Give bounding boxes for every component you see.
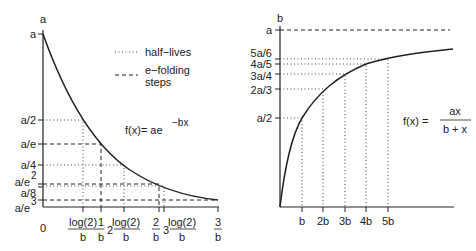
- right-y-tick-a: a: [266, 24, 273, 36]
- left-y-tick-over-e3: a/e: [15, 202, 30, 214]
- exponential-decay-curve: [43, 34, 218, 200]
- left-x-tick-1-over-b: 1 b: [98, 216, 104, 243]
- left-y-tick-e3-exponent: 3: [31, 196, 37, 207]
- svg-text:1: 1: [98, 216, 104, 228]
- right-guides: [280, 59, 388, 207]
- right-formula-denominator: b + x: [443, 123, 468, 135]
- legend-half-lives-label: half−lives: [145, 46, 192, 58]
- left-x-tick-3-over-b: 3 b: [214, 216, 222, 243]
- svg-text:b: b: [123, 231, 129, 243]
- left-formula: f(x)= ae −bx: [125, 117, 188, 136]
- left-x-ticks: [83, 207, 218, 212]
- svg-text:3: 3: [215, 216, 221, 228]
- left-y-ticks: [38, 34, 43, 200]
- diagram-canvas: a a a/2 a/e a/4 a/e 2 a/8 a/e 3: [0, 0, 476, 251]
- left-x-tick-2log2-over-b: 2 log(2) b: [107, 216, 140, 243]
- right-y-tick-2a3: 2a/3: [251, 84, 272, 96]
- right-x-tick-2b: 2b: [317, 215, 329, 227]
- right-panel-saturation: b a 5a/6 4a/5 3a/4 2a/3 a/2: [251, 12, 471, 227]
- left-y-tick-e2-exponent: 2: [31, 170, 37, 181]
- svg-text:b: b: [98, 231, 104, 243]
- right-y-tick-4a5: 4a/5: [251, 58, 272, 70]
- right-y-ticks: [275, 30, 280, 118]
- left-y-axis-label: a: [40, 13, 47, 25]
- right-y-axis-label: b: [277, 12, 283, 24]
- right-formula: f(x) = ax b + x: [403, 105, 471, 135]
- left-y-tick-a: a: [30, 28, 37, 40]
- right-formula-numerator: ax: [449, 105, 461, 117]
- left-e-folding-guides: [43, 144, 218, 207]
- right-x-tick-5b: 5b: [382, 215, 394, 227]
- legend-steps-label: steps: [145, 76, 172, 88]
- svg-text:b: b: [80, 231, 86, 243]
- svg-text:2: 2: [153, 216, 159, 228]
- left-x-tick-3log2-over-b: 3 log(2) b: [163, 216, 196, 243]
- left-panel-exponential-decay: a a a/2 a/e a/4 a/e 2 a/8 a/e 3: [15, 13, 222, 243]
- left-y-tick-over-e: a/e: [21, 138, 36, 150]
- left-y-tick-half: a/2: [21, 114, 36, 126]
- right-x-tick-4b: 4b: [360, 215, 372, 227]
- left-formula-main: f(x)= ae: [125, 124, 163, 136]
- left-x-tick-2-over-b: 2 b: [152, 216, 160, 243]
- svg-text:log(2): log(2): [112, 216, 140, 228]
- legend-e-folding-label: e−folding: [145, 64, 190, 76]
- left-x-tick-log2-over-b: log(2) b: [68, 216, 98, 243]
- left-legend: half−lives e−folding steps: [115, 46, 192, 88]
- right-x-tick-3b: 3b: [339, 215, 351, 227]
- right-x-ticks: [302, 207, 388, 212]
- right-y-tick-3a4: 3a/4: [251, 70, 272, 82]
- svg-text:b: b: [215, 231, 221, 243]
- svg-text:b: b: [153, 231, 159, 243]
- svg-text:log(2): log(2): [168, 216, 196, 228]
- right-x-tick-b: b: [299, 215, 305, 227]
- right-formula-lhs: f(x) =: [403, 115, 428, 127]
- right-y-tick-a2: a/2: [257, 112, 272, 124]
- svg-text:b: b: [179, 231, 185, 243]
- svg-text:log(2): log(2): [69, 216, 97, 228]
- left-x-origin: 0: [40, 222, 46, 234]
- left-formula-exponent: −bx: [172, 117, 188, 128]
